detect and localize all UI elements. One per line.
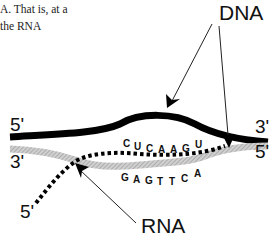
- top-left-5prime-label: 5': [10, 114, 24, 135]
- dna-pointer-arrowhead-1: [166, 94, 180, 108]
- bottom-left-3prime-label: 3': [10, 151, 24, 172]
- transcription-bubble-diagram: 5' 3' 3' 5' 5' C U C A A G U G A G T T C…: [0, 0, 277, 238]
- svg-text:C: C: [181, 173, 188, 184]
- svg-text:G: G: [145, 175, 153, 186]
- svg-text:U: U: [195, 139, 202, 150]
- svg-text:U: U: [134, 141, 141, 152]
- svg-text:T: T: [169, 176, 175, 187]
- svg-text:C: C: [123, 138, 130, 149]
- rna-label: RNA: [141, 214, 185, 237]
- dna-label: DNA: [219, 1, 263, 24]
- svg-text:G: G: [182, 143, 190, 154]
- bottom-right-5prime-label: 5': [255, 141, 269, 162]
- svg-text:T: T: [157, 176, 163, 187]
- svg-text:A: A: [133, 174, 140, 185]
- top-right-3prime-label: 3': [255, 116, 269, 137]
- rna-5prime-label: 5': [20, 201, 34, 222]
- svg-text:G: G: [121, 172, 129, 183]
- svg-text:A: A: [170, 144, 177, 155]
- svg-text:C: C: [146, 143, 153, 154]
- dna-pointer-line-2: [219, 26, 228, 135]
- dna-pointer-line-1: [172, 24, 212, 101]
- dna-template-sequence: G A G T T C A: [121, 168, 201, 187]
- svg-text:A: A: [194, 168, 201, 179]
- svg-text:A: A: [158, 144, 165, 155]
